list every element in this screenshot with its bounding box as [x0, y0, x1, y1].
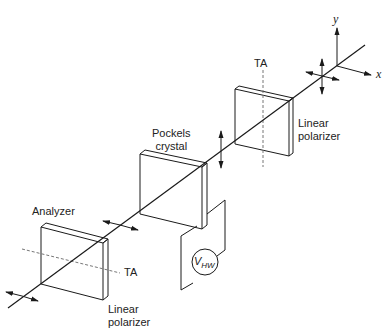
- input-polarizer-ta-label: TA: [254, 57, 267, 70]
- x-axis-label: x: [376, 68, 381, 81]
- output-polarization-arrow-right: [22, 296, 38, 301]
- input-polarizer-label-line2: polarizer: [298, 130, 340, 143]
- voltage-subscript: HW: [201, 261, 214, 270]
- pockels-crystal-label: Pockels crystal: [152, 127, 191, 153]
- horizontal-polarization-arrow-right: [120, 225, 138, 230]
- y-axis-label: y: [333, 13, 338, 26]
- coordinate-axes: [337, 28, 371, 75]
- analyzer-ta-label: TA: [124, 266, 137, 279]
- diagram-svg: [0, 0, 391, 334]
- analyzer-sublabel-line1: Linear: [108, 303, 150, 316]
- analyzer-sublabel: Linear polarizer: [108, 303, 150, 329]
- half-wave-voltage-label: VHW: [194, 255, 215, 272]
- analyzer-sublabel-line2: polarizer: [108, 316, 150, 329]
- pockels-cell-diagram: y x TA Linear polarizer Pockels crystal …: [0, 0, 391, 334]
- light-beam: [8, 45, 365, 308]
- input-polarizer-label-line1: Linear: [298, 117, 340, 130]
- analyzer-label: Analyzer: [32, 205, 75, 218]
- input-polarizer-plate: [235, 70, 293, 167]
- pockels-crystal-block: [140, 150, 207, 229]
- pockels-crystal-label-line2: crystal: [152, 140, 191, 153]
- output-polarization-arrow-left: [6, 292, 22, 296]
- x-axis-arrow: [337, 66, 371, 75]
- horizontal-polarization-arrow-left: [103, 221, 120, 225]
- pockels-crystal-label-line1: Pockels: [152, 127, 191, 140]
- input-polarizer-label: Linear polarizer: [298, 117, 340, 143]
